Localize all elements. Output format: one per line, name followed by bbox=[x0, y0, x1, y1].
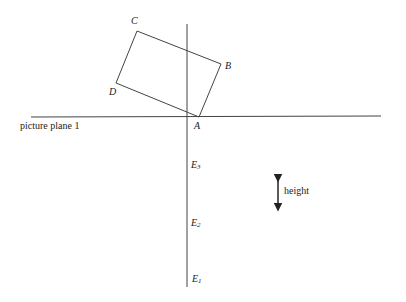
perspective-diagram: C B D A picture plane 1 E3 E2 E1 height bbox=[0, 0, 406, 302]
eye-point-e3: E3 bbox=[190, 159, 201, 171]
corner-label-a: A bbox=[193, 120, 201, 131]
eye-point-e2: E2 bbox=[190, 217, 201, 229]
eye-point-e1: E1 bbox=[191, 273, 202, 285]
corner-label-d: D bbox=[108, 86, 117, 97]
corner-label-c: C bbox=[131, 15, 138, 26]
picture-plane-label: picture plane 1 bbox=[20, 120, 79, 131]
picture-plane-line bbox=[31, 116, 381, 117]
height-label: height bbox=[284, 185, 309, 196]
diagram-canvas: C B D A picture plane 1 E3 E2 E1 height bbox=[0, 0, 406, 302]
corner-label-b: B bbox=[225, 60, 231, 71]
rectangle-abcd bbox=[116, 31, 221, 117]
